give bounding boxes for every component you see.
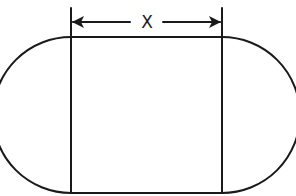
- left-semicircle: [0, 37, 71, 193]
- right-semicircle: [222, 37, 296, 193]
- dimension-label: X: [141, 12, 153, 32]
- stadium-diagram: X: [0, 0, 296, 196]
